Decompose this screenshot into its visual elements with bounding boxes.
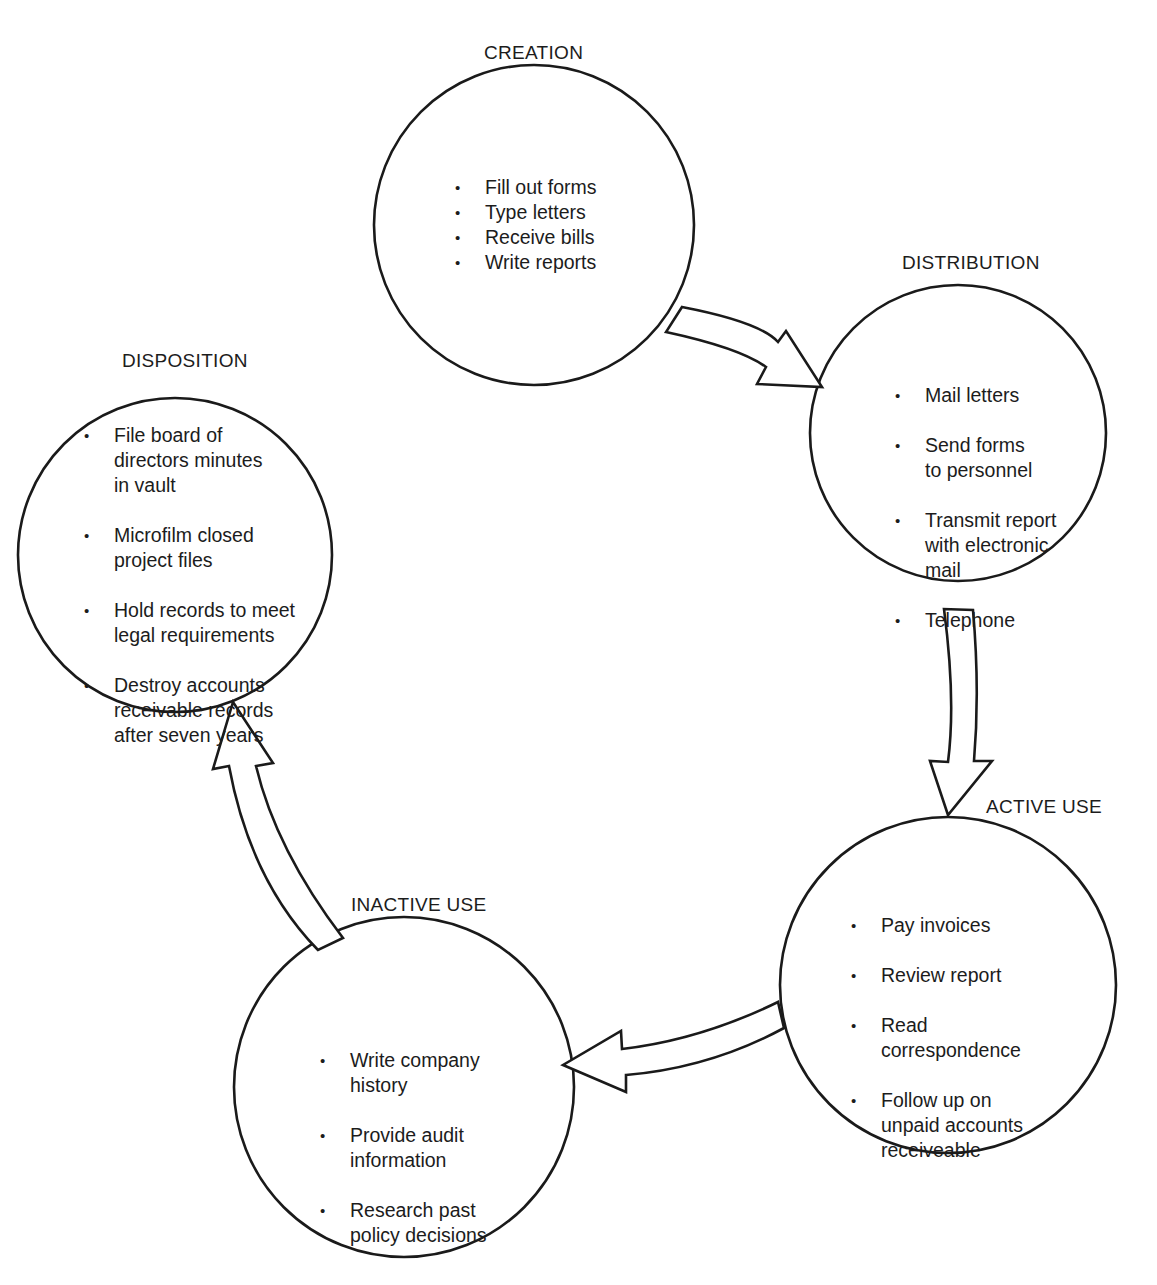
stage-items-inactive-use: Write company history Provide audit info… <box>320 1023 487 1273</box>
list-item: Send forms to personnel <box>895 433 1056 483</box>
list-item: Receive bills <box>455 225 597 250</box>
list-item: Read correspondence <box>851 1013 1023 1063</box>
arrow-active-use-to-inactive-use <box>563 1002 784 1092</box>
stage-title-inactive-use: INACTIVE USE <box>351 894 487 916</box>
stage-items-active-use: Pay invoices Review report Read correspo… <box>851 888 1023 1188</box>
stage-title-active-use: ACTIVE USE <box>986 796 1102 818</box>
list-item: Type letters <box>455 200 597 225</box>
list-item: Pay invoices <box>851 913 1023 938</box>
stage-title-distribution: DISTRIBUTION <box>902 252 1040 274</box>
stage-items-disposition: File board of directors minutes in vault… <box>84 398 295 773</box>
stage-title-disposition: DISPOSITION <box>122 350 248 372</box>
stage-items-creation: Fill out forms Type letters Receive bill… <box>455 175 597 275</box>
list-item: Hold records to meet legal requirements <box>84 598 295 648</box>
list-item: Transmit report with electronic mail <box>895 508 1056 583</box>
list-item: File board of directors minutes in vault <box>84 423 295 498</box>
arrow-creation-to-distribution <box>666 307 822 387</box>
list-item: Write company history <box>320 1048 487 1098</box>
list-item: Follow up on unpaid accounts receiveable <box>851 1088 1023 1163</box>
list-item: Research past policy decisions <box>320 1198 487 1248</box>
list-item: Write reports <box>455 250 597 275</box>
list-item: Provide audit information <box>320 1123 487 1173</box>
list-item: Review report <box>851 963 1023 988</box>
stage-items-distribution: Mail letters Send forms to personnel Tra… <box>895 358 1056 658</box>
list-item: Microfilm closed project files <box>84 523 295 573</box>
stage-title-creation: CREATION <box>484 42 583 64</box>
list-item: Destroy accounts receivable records afte… <box>84 673 295 748</box>
list-item: Fill out forms <box>455 175 597 200</box>
list-item: Mail letters <box>895 383 1056 408</box>
list-item: Telephone <box>895 608 1056 633</box>
